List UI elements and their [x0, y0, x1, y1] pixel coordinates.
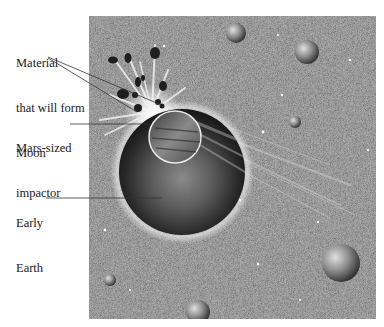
mars-sized-impactor [149, 111, 201, 163]
label-line: Earth [16, 261, 43, 276]
label-early-earth: Early Earth [16, 186, 43, 291]
label-line: Mars-sized [16, 141, 72, 156]
label-line: Material [16, 56, 85, 71]
label-line: Early [16, 216, 43, 231]
